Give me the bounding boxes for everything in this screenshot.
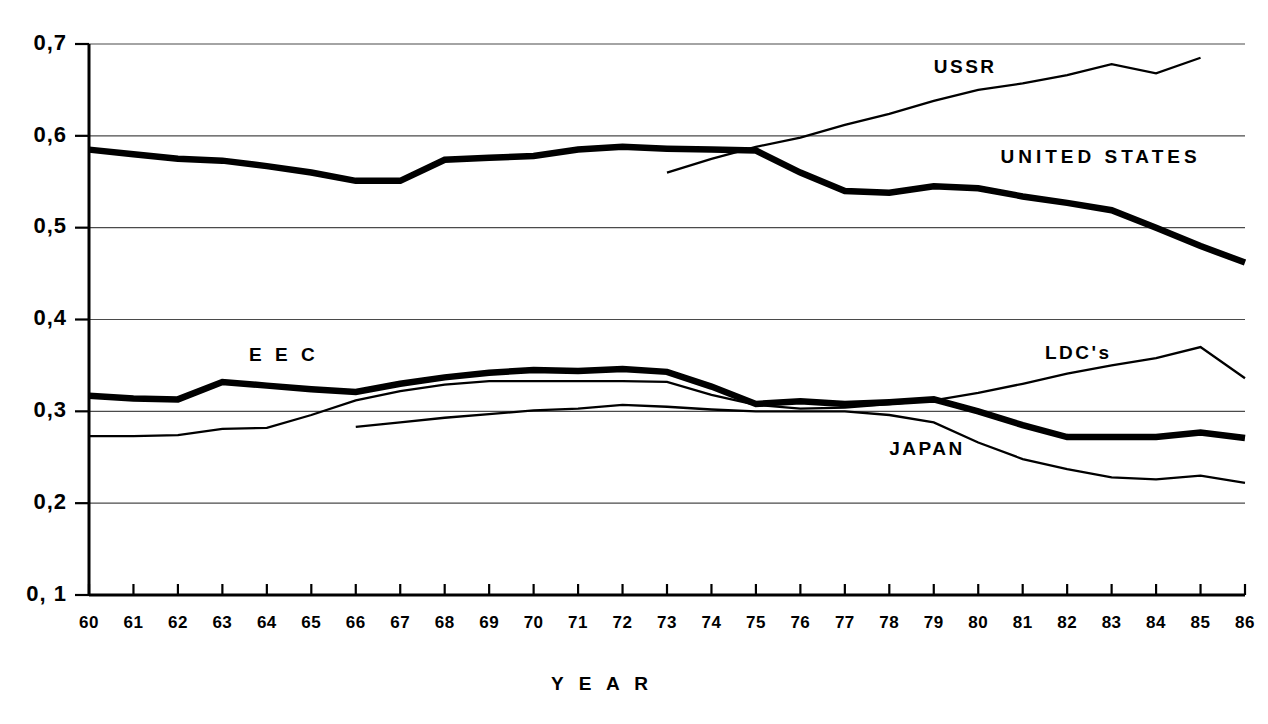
x-tick-label: 82 xyxy=(1057,613,1077,632)
y-tick-label: 0,3 xyxy=(33,397,67,422)
x-tick-label: 64 xyxy=(257,613,277,632)
x-tick-label: 67 xyxy=(390,613,410,632)
x-tick-label: 72 xyxy=(613,613,633,632)
x-tick-label: 60 xyxy=(79,613,99,632)
series-label-united-states: UNITED STATES xyxy=(1000,146,1200,167)
series-label-ussr: USSR xyxy=(934,56,997,77)
series-label-japan: JAPAN xyxy=(889,438,965,459)
x-tick-label: 70 xyxy=(524,613,544,632)
x-tick-label: 77 xyxy=(835,613,855,632)
x-tick-label: 74 xyxy=(701,613,721,632)
data-series-group xyxy=(89,58,1245,483)
x-tick-label: 83 xyxy=(1102,613,1122,632)
x-tick-label: 75 xyxy=(746,613,766,632)
x-tick-labels: 6061626364656667686970717273747576777879… xyxy=(79,613,1255,632)
x-tick-label: 76 xyxy=(790,613,810,632)
x-tick-label: 86 xyxy=(1235,613,1255,632)
x-axis-title: Y E A R xyxy=(551,673,653,694)
x-tick-label: 69 xyxy=(479,613,499,632)
y-tick-labels: 0,70,60,50,40,30,20, 1 xyxy=(26,30,67,606)
x-tick-label: 85 xyxy=(1191,613,1211,632)
y-tick-label: 0,5 xyxy=(33,213,67,238)
x-tick-label: 84 xyxy=(1146,613,1166,632)
x-tick-label: 79 xyxy=(924,613,944,632)
y-tick-label: 0,6 xyxy=(33,122,67,147)
y-tick-marks xyxy=(75,44,89,595)
x-tick-marks xyxy=(89,584,1245,595)
y-tick-label: 0,7 xyxy=(33,30,67,55)
x-tick-label: 80 xyxy=(968,613,988,632)
series-label-e-e-c: E E C xyxy=(249,344,319,365)
x-tick-label: 78 xyxy=(879,613,899,632)
x-tick-label: 66 xyxy=(346,613,366,632)
y-tick-label: 0,2 xyxy=(33,489,67,514)
y-tick-label: 0, 1 xyxy=(26,581,67,606)
x-tick-label: 68 xyxy=(435,613,455,632)
x-tick-label: 62 xyxy=(168,613,188,632)
x-tick-label: 73 xyxy=(657,613,677,632)
x-tick-label: 81 xyxy=(1013,613,1033,632)
chart-container: 0,70,60,50,40,30,20, 1 60616263646566676… xyxy=(0,0,1268,724)
series-line-japan xyxy=(356,405,1245,483)
x-tick-label: 65 xyxy=(301,613,321,632)
series-label-ldc-s: LDC's xyxy=(1045,342,1112,363)
line-chart: 0,70,60,50,40,30,20, 1 60616263646566676… xyxy=(0,0,1268,724)
x-tick-label: 71 xyxy=(568,613,588,632)
y-tick-label: 0,4 xyxy=(33,305,67,330)
x-tick-label: 61 xyxy=(123,613,143,632)
x-tick-label: 63 xyxy=(212,613,232,632)
